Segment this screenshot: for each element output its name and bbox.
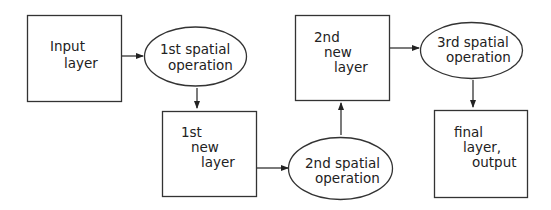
node-new-layer-2-line-1: 2nd	[314, 29, 340, 45]
node-new-layer-2: 2nd new layer	[296, 16, 390, 101]
node-final-layer: final layer, output	[435, 111, 528, 198]
node-op3: 3rd spatial operation	[421, 23, 523, 79]
node-op1-line-1: 1st spatial	[160, 41, 230, 57]
node-op3-line-2: operation	[446, 49, 511, 65]
node-op2: 2nd spatial operation	[289, 138, 393, 200]
node-final-layer-line-1: final	[454, 124, 483, 140]
node-new-layer-2-line-3: layer	[334, 59, 368, 75]
node-input-layer: Input layer	[28, 16, 122, 102]
node-new-layer-2-line-2: new	[324, 44, 352, 60]
node-new-layer-1-line-3: layer	[201, 154, 235, 170]
node-new-layer-1-line-1: 1st	[181, 124, 202, 140]
node-input-layer-line-2: layer	[64, 55, 98, 71]
flowchart-canvas: Input layer 1st spatial operation 1st ne…	[0, 0, 551, 210]
node-op2-line-1: 2nd spatial	[305, 155, 380, 171]
node-op3-line-1: 3rd spatial	[437, 34, 509, 50]
node-new-layer-1-line-2: new	[191, 139, 219, 155]
node-new-layer-1: 1st new layer	[163, 112, 257, 197]
node-op1-line-2: operation	[168, 57, 233, 73]
node-op1: 1st spatial operation	[145, 27, 247, 86]
node-final-layer-line-2: layer,	[463, 139, 501, 155]
node-input-layer-line-1: Input	[50, 38, 85, 54]
node-final-layer-line-3: output	[472, 154, 517, 170]
node-op2-line-2: operation	[315, 170, 380, 186]
